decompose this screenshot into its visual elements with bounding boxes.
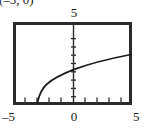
plot-canvas bbox=[13, 22, 132, 105]
y-axis-top-tick-label: 5 bbox=[68, 6, 80, 19]
x-axis-left-tick-label: –5 bbox=[2, 110, 15, 123]
graph-figure: (–3, 0) 5 –5 0 5 bbox=[0, 0, 144, 128]
x-axis-origin-tick-label: 0 bbox=[68, 110, 80, 123]
x-axis-right-tick-label: 5 bbox=[133, 110, 140, 123]
function-curve bbox=[38, 55, 132, 103]
point-annotation-label: (–3, 0) bbox=[0, 0, 34, 6]
